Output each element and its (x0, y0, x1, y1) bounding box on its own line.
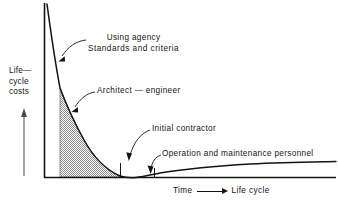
x-axis-title-start: Time (173, 186, 193, 197)
shaded-phase-region (60, 88, 120, 177)
annotation-om-personnel: Operation and maintenance personnel (162, 149, 314, 160)
chart-canvas (0, 0, 338, 212)
annotation-using-agency: Using agency Standards and criteria (88, 33, 179, 54)
x-axis-title: TimeLife cycle (173, 186, 270, 197)
y-axis-title-line-2: cycle (9, 77, 31, 88)
right-arrow-icon (197, 187, 229, 195)
y-axis-title: Life— cycle costs (9, 66, 31, 98)
y-axis-title-line-3: costs (9, 87, 31, 98)
annotation-initial-contractor: Initial contractor (152, 124, 216, 135)
annotation-using-agency-line-2: Standards and criteria (88, 44, 179, 55)
annotation-using-agency-line-1: Using agency (88, 33, 179, 44)
leader-initial-contractor (126, 130, 150, 161)
x-axis-title-end: Life cycle (232, 186, 270, 197)
up-arrow-icon (21, 108, 27, 176)
annotation-architect-engineer: Architect — engineer (97, 86, 180, 97)
leader-architect-engineer (72, 92, 96, 112)
y-axis-title-line-1: Life— (9, 66, 31, 77)
leader-using-agency (59, 40, 87, 62)
life-cycle-cost-figure: Life— cycle costs Using agency Standards… (0, 0, 338, 212)
